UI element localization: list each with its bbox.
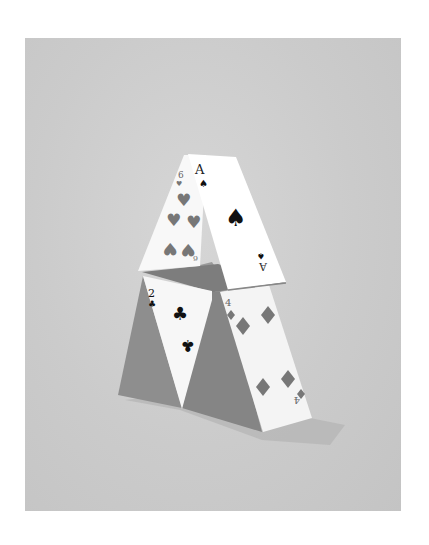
heart-pip-icon: ♥ (166, 210, 181, 230)
svg-text:A: A (194, 162, 205, 177)
svg-text:4: 4 (294, 395, 300, 406)
svg-text:A: A (258, 260, 268, 273)
club-pip-icon: ♣ (181, 336, 195, 355)
heart-pip-icon: ♥ (176, 180, 182, 188)
heart-pip-icon: ♥ (163, 239, 178, 259)
painting-panel: 2 ♣ ♣ ♣ 4 4 6 ♥ ♥ ♥ ♥ ♥ ♥ 6 (25, 38, 401, 511)
svg-text:6: 6 (193, 254, 198, 263)
svg-text:4: 4 (225, 297, 231, 308)
spade-pip-icon: ♠ (199, 178, 208, 189)
spade-pip-icon: ♠ (225, 204, 247, 232)
heart-pip-icon: ♥ (186, 212, 201, 232)
svg-text:6: 6 (178, 170, 184, 180)
club-pip-icon: ♣ (148, 299, 156, 309)
spade-pip-icon: ♠ (257, 251, 265, 261)
heart-pip-icon: ♥ (176, 190, 191, 210)
club-pip-icon: ♣ (172, 303, 188, 324)
house-of-cards-illustration: 2 ♣ ♣ ♣ 4 4 6 ♥ ♥ ♥ ♥ ♥ ♥ 6 (25, 38, 401, 511)
